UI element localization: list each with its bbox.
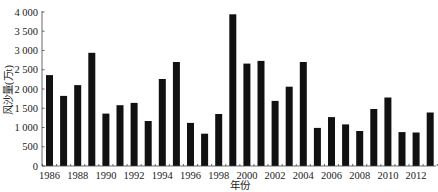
x-tick-label: 1988 — [67, 170, 88, 181]
y-tick-label: 2 000 — [14, 84, 38, 95]
y-tick-label: 3 000 — [14, 45, 38, 56]
bar-2010 — [384, 98, 391, 167]
bar-2005 — [314, 128, 321, 166]
bar-2006 — [328, 117, 335, 166]
x-tick-label: 2006 — [321, 170, 342, 181]
bar-2012 — [413, 133, 420, 167]
bar-2011 — [399, 132, 406, 166]
bar-1988 — [74, 85, 81, 166]
y-tick-label: 0 — [33, 161, 38, 172]
bar-1992 — [131, 103, 138, 166]
bar-1997 — [201, 134, 208, 166]
y-tick-label: 500 — [22, 141, 38, 152]
bar-1995 — [173, 62, 180, 166]
x-tick-label: 1990 — [95, 170, 116, 181]
bar-2001 — [258, 61, 265, 166]
bar-2004 — [300, 62, 307, 166]
x-tick-label: 1998 — [208, 170, 229, 181]
y-tick-label: 2 500 — [14, 64, 38, 75]
x-tick-label: 2004 — [293, 170, 315, 181]
bar-1986 — [46, 75, 53, 166]
y-tick-label: 1 500 — [14, 103, 38, 114]
bar-1990 — [102, 114, 109, 166]
bar-chart: 05001 0001 5002 0002 5003 0003 5004 000 … — [0, 0, 438, 192]
bar-1994 — [159, 79, 166, 166]
x-tick-label: 2010 — [377, 170, 398, 181]
bar-2009 — [370, 109, 377, 166]
x-tick-label: 2002 — [265, 170, 286, 181]
y-axis: 05001 0001 5002 0002 5003 0003 5004 000 — [14, 7, 44, 172]
bar-1987 — [60, 96, 67, 166]
bar-2000 — [243, 64, 250, 166]
x-tick-label: 2012 — [406, 170, 427, 181]
bar-2008 — [356, 131, 363, 166]
bar-1993 — [145, 121, 152, 166]
y-tick-label: 4 000 — [14, 7, 38, 18]
bar-1999 — [229, 14, 236, 166]
y-tick-label: 3 500 — [14, 26, 38, 37]
bar-1996 — [187, 123, 194, 166]
bar-1991 — [117, 105, 124, 166]
bar-2002 — [272, 101, 279, 166]
bar-1989 — [88, 53, 95, 166]
x-axis-title: 年份 — [230, 179, 251, 191]
x-tick-label: 1996 — [180, 170, 201, 181]
bar-2013 — [427, 113, 434, 167]
y-axis-title: 风沙量(万t) — [3, 65, 15, 115]
x-tick-label: 1992 — [124, 170, 145, 181]
x-tick-label: 1986 — [39, 170, 60, 181]
y-tick-label: 1 000 — [14, 122, 38, 133]
bar-1998 — [215, 114, 222, 166]
x-tick-label: 1994 — [152, 170, 174, 181]
x-tick-label: 2008 — [349, 170, 370, 181]
bar-2007 — [342, 124, 349, 166]
x-axis: 1986198819901992199419961998200020022004… — [39, 164, 437, 181]
bars-group — [46, 14, 434, 166]
bar-2003 — [286, 87, 293, 166]
